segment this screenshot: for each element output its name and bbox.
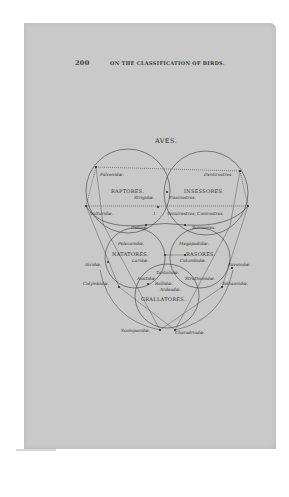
label-alcidae: Alcidæ. xyxy=(84,262,101,267)
label-columbidae: Columbidæ. xyxy=(180,258,206,263)
label-fissirostres: Fissirostres. xyxy=(168,195,196,200)
label-insessores: INSESSORES. xyxy=(184,188,224,194)
label-anatidae: Anatidæ. xyxy=(136,276,157,281)
label-charadriadae: Charadriadæ. xyxy=(175,330,205,335)
label-natatores: NATATORES. xyxy=(112,251,149,257)
label-tenuirostres-conirostres: Tenuirostres, Conirostres. xyxy=(167,211,224,216)
label-scolopacidae: Scolopacidæ. xyxy=(121,328,150,333)
label-megapodidae: Megapodidæ. xyxy=(178,241,209,246)
label-rasores: RASORES. xyxy=(186,251,216,257)
label-ardeadae: Ardeadæ. xyxy=(159,287,181,292)
label-grallatores: GRALLATORES. xyxy=(141,296,186,302)
page-edge-shadow xyxy=(16,449,56,451)
label-pelecanidae: Pelecanidæ. xyxy=(117,241,144,246)
label-tantalidae: Tantalidæ. xyxy=(156,270,179,275)
label-tetraonidae: Tetraonidæ. xyxy=(222,281,248,286)
label-vulturidae: Vulturidæ. xyxy=(90,211,113,216)
label-marker-one: 1 xyxy=(153,211,156,216)
label-falconidae: Falconidæ. xyxy=(99,172,124,177)
label-rallidae: Rallidæ. xyxy=(154,281,173,286)
classification-diagram: Falconidæ. Dentirostres. RAPTORES. INSES… xyxy=(0,0,289,497)
label-didinae: Didinæ. xyxy=(130,225,148,230)
label-strigidae: Strigidæ. xyxy=(134,195,154,200)
label-struthionidae: Struthionidæ. xyxy=(185,276,215,281)
label-pavonidae: Pavonidæ. xyxy=(227,262,251,267)
label-colymbidae: Colymbidæ. xyxy=(83,281,109,286)
label-dentirostres: Dentirostres. xyxy=(203,172,233,177)
label-laridae: Laridæ. xyxy=(131,258,149,263)
label-scansores: Scansores. xyxy=(192,225,216,230)
label-raptores: RAPTORES. xyxy=(111,188,144,194)
